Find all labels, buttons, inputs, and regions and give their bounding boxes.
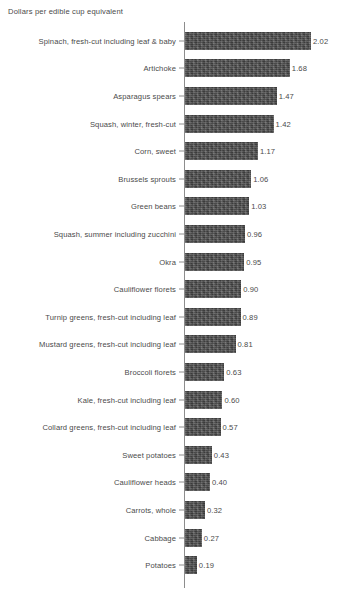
category-label: Green beans [131,202,176,211]
bar [185,59,290,77]
category-label: Asparagus spears [113,91,176,100]
bar [185,115,274,133]
category-label: Broccoli florets [125,367,176,376]
bar-row: Cauliflower heads0.40 [0,469,344,497]
bar-value-label: 0.90 [243,285,258,294]
bar-row: Sweet potatoes0.43 [0,441,344,469]
category-label: Okra [159,257,176,266]
category-label: Turnip greens, fresh-cut including leaf [45,312,176,321]
bar [185,335,236,353]
bar-value-label: 1.06 [253,174,268,183]
bar-row: Artichoke1.68 [0,55,344,83]
bar [185,197,249,215]
bar-row: Turnip greens, fresh-cut including leaf0… [0,303,344,331]
axis-tick [179,178,184,179]
bar-row: Corn, sweet1.17 [0,137,344,165]
bar-value-label: 0.81 [238,340,253,349]
bar [185,170,251,188]
axis-tick [179,68,184,69]
axis-tick [179,206,184,207]
bar-row: Squash, winter, fresh-cut1.42 [0,110,344,138]
bar-value-label: 1.42 [276,119,291,128]
axis-tick [179,399,184,400]
axis-tick [179,123,184,124]
category-label: Sweet potatoes [122,450,176,459]
bar-row: Kale, fresh-cut including leaf0.60 [0,386,344,414]
bar [185,308,241,326]
bar [185,253,244,271]
category-label: Spinach, fresh-cut including leaf & baby [39,36,176,45]
bar [185,142,258,160]
bar [185,501,205,519]
bar-value-label: 1.03 [251,202,266,211]
bar-value-label: 0.63 [226,367,241,376]
axis-tick [179,261,184,262]
bar-value-label: 0.40 [212,478,227,487]
category-label: Cabbage [144,533,176,542]
axis-tick [179,482,184,483]
category-label: Collard greens, fresh-cut including leaf [42,423,176,432]
category-label: Artichoke [143,64,176,73]
bar-row: Asparagus spears1.47 [0,82,344,110]
axis-tick [179,344,184,345]
category-label: Mustard greens, fresh-cut including leaf [39,340,176,349]
axis-tick [179,537,184,538]
bar-value-label: 0.89 [243,312,258,321]
bar-row: Cauliflower florets0.90 [0,275,344,303]
category-label: Carrots, whole [126,505,176,514]
plot-area: Spinach, fresh-cut including leaf & baby… [0,22,344,588]
axis-tick [179,509,184,510]
category-label: Potatoes [145,561,176,570]
bar-value-label: 0.96 [247,229,262,238]
bar [185,529,202,547]
bar-value-label: 0.27 [204,533,219,542]
bar-row: Potatoes0.19 [0,551,344,579]
category-label: Kale, fresh-cut including leaf [78,395,176,404]
bar-row: Spinach, fresh-cut including leaf & baby… [0,27,344,55]
bar-row: Broccoli florets0.63 [0,358,344,386]
bar-value-label: 0.43 [214,450,229,459]
axis-tick [179,371,184,372]
bar [185,87,277,105]
axis-tick [179,565,184,566]
axis-tick [179,95,184,96]
bar-row: Carrots, whole0.32 [0,496,344,524]
axis-tick [179,40,184,41]
bar-value-label: 2.02 [313,36,328,45]
category-label: Squash, summer including zucchini [54,229,176,238]
bar-row: Brussels sprouts1.06 [0,165,344,193]
bar-row: Mustard greens, fresh-cut including leaf… [0,331,344,359]
bar-value-label: 1.68 [292,64,307,73]
axis-tick [179,289,184,290]
axis-tick [179,151,184,152]
axis-tick [179,233,184,234]
category-label: Squash, winter, fresh-cut [90,119,176,128]
bar [185,363,224,381]
axis-tick [179,427,184,428]
bar [185,391,222,409]
bar [185,446,212,464]
bar-row: Okra0.95 [0,248,344,276]
bar-value-label: 0.19 [199,561,214,570]
axis-tick [179,316,184,317]
axis-tick [179,454,184,455]
bar [185,32,311,50]
bar-row: Collard greens, fresh-cut including leaf… [0,413,344,441]
bar-value-label: 0.95 [246,257,261,266]
category-label: Cauliflower heads [114,478,176,487]
chart-title: Dollars per edible cup equivalent [8,7,123,17]
bar-chart: Dollars per edible cup equivalent Spinac… [0,0,344,593]
bar [185,556,197,574]
bar-row: Cabbage0.27 [0,524,344,552]
bar [185,473,210,491]
bar [185,418,221,436]
bar-value-label: 0.32 [207,505,222,514]
bar-value-label: 0.57 [223,423,238,432]
bar-row: Green beans1.03 [0,193,344,221]
bar-row: Squash, summer including zucchini0.96 [0,220,344,248]
bar-value-label: 1.17 [260,147,275,156]
category-label: Corn, sweet [134,147,176,156]
bar-value-label: 1.47 [279,91,294,100]
bar [185,280,241,298]
bar-value-label: 0.60 [224,395,239,404]
